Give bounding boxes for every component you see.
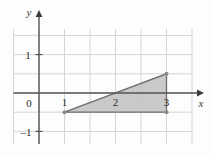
x-tick-label-2: 2 bbox=[113, 96, 119, 108]
plot-background bbox=[0, 0, 213, 156]
x-tick-label-3: 3 bbox=[164, 96, 170, 108]
vertex-point-a bbox=[63, 110, 67, 114]
plot-canvas: y x 1 0 –1 1 2 3 bbox=[0, 0, 213, 156]
vertex-point-c bbox=[165, 72, 169, 76]
y-tick-label-neg1: –1 bbox=[20, 126, 32, 138]
origin-label: 0 bbox=[26, 97, 32, 109]
x-axis-label: x bbox=[198, 97, 204, 109]
y-tick-label-1: 1 bbox=[25, 49, 31, 61]
coordinate-plane-figure: y x 1 0 –1 1 2 3 bbox=[0, 0, 213, 156]
y-axis-label: y bbox=[26, 6, 32, 18]
x-tick-label-1: 1 bbox=[62, 96, 68, 108]
vertex-point-b bbox=[165, 110, 169, 114]
